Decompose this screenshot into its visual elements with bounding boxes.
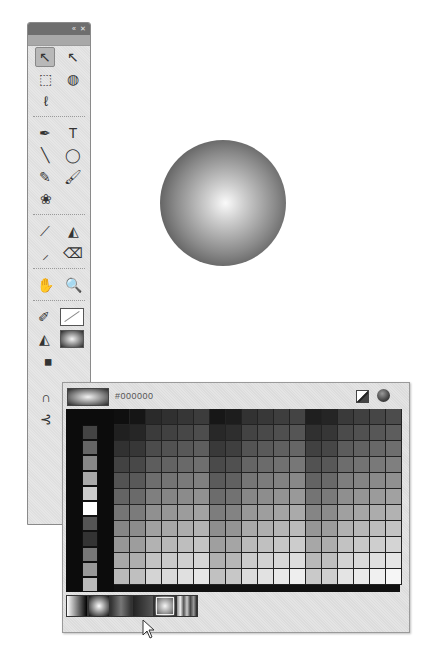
swatch-cell[interactable] xyxy=(386,569,402,585)
swatch-cell[interactable] xyxy=(290,409,306,425)
swatch-cell[interactable] xyxy=(354,489,370,505)
swatch-cell[interactable] xyxy=(290,505,306,521)
swatch-cell[interactable] xyxy=(210,425,226,441)
swatch-cell[interactable] xyxy=(386,441,402,457)
tools-grip-bar[interactable] xyxy=(28,35,90,46)
swatch-cell[interactable] xyxy=(114,473,130,489)
eraser-tool-icon[interactable]: ⌫ xyxy=(63,243,83,263)
swatch-cell[interactable] xyxy=(242,457,258,473)
swatch-cell[interactable] xyxy=(306,441,322,457)
3d-rotation-tool-icon[interactable]: ◍ xyxy=(63,69,83,89)
swatch-cell[interactable] xyxy=(178,441,194,457)
swatch-cell[interactable] xyxy=(306,473,322,489)
swatch-cell[interactable] xyxy=(370,441,386,457)
swatch-cell[interactable] xyxy=(322,425,338,441)
swatch-cell[interactable] xyxy=(338,409,354,425)
swatch-cell[interactable] xyxy=(178,569,194,585)
swatch-cell[interactable] xyxy=(178,409,194,425)
free-transform-tool-icon[interactable]: ⬚ xyxy=(35,69,55,89)
close-icon[interactable]: ✕ xyxy=(80,23,86,35)
swatch-cell[interactable] xyxy=(322,409,338,425)
swatch-cell[interactable] xyxy=(354,409,370,425)
hex-value-field[interactable]: #000000 xyxy=(115,391,154,401)
swatch-cell[interactable] xyxy=(258,537,274,553)
color-picker-icon[interactable] xyxy=(377,389,390,402)
black-column[interactable] xyxy=(66,409,82,592)
swatch-cell[interactable] xyxy=(82,562,98,577)
swatch-cell[interactable] xyxy=(178,505,194,521)
swatch-cell[interactable] xyxy=(354,441,370,457)
swatch-cell[interactable] xyxy=(258,553,274,569)
swatch-cell[interactable] xyxy=(386,521,402,537)
eyedropper-tool-icon[interactable]: ⸝ xyxy=(35,243,55,263)
swatch-cell[interactable] xyxy=(130,505,146,521)
swatch-cell[interactable] xyxy=(146,409,162,425)
swatch-cell[interactable] xyxy=(274,473,290,489)
swatch-cell[interactable] xyxy=(210,441,226,457)
swatch-cell[interactable] xyxy=(162,473,178,489)
tools-titlebar[interactable]: « ✕ xyxy=(28,23,90,35)
swatch-cell[interactable] xyxy=(178,473,194,489)
swatch-cell[interactable] xyxy=(370,505,386,521)
swatch-cell[interactable] xyxy=(370,569,386,585)
swatch-cell[interactable] xyxy=(178,457,194,473)
swatch-cell[interactable] xyxy=(370,521,386,537)
swatch-cell[interactable] xyxy=(210,489,226,505)
swatch-cell[interactable] xyxy=(274,537,290,553)
swatch-cell[interactable] xyxy=(242,441,258,457)
swatch-cell[interactable] xyxy=(194,473,210,489)
swatch-cell[interactable] xyxy=(226,441,242,457)
swatch-cell[interactable] xyxy=(290,569,306,585)
swatch-cell[interactable] xyxy=(114,441,130,457)
swatch-cell[interactable] xyxy=(146,457,162,473)
swatch-cell[interactable] xyxy=(226,457,242,473)
swatch-cell[interactable] xyxy=(226,489,242,505)
swatch-cell[interactable] xyxy=(210,505,226,521)
deco-tool-icon[interactable]: ❀ xyxy=(36,189,56,209)
swatch-cell[interactable] xyxy=(130,553,146,569)
swatch-cell[interactable] xyxy=(226,521,242,537)
swatch-cell[interactable] xyxy=(114,457,130,473)
zoom-tool-icon[interactable]: 🔍 xyxy=(63,275,83,295)
swatch-cell[interactable] xyxy=(162,425,178,441)
bone-tool-icon[interactable]: ⟋ xyxy=(35,221,55,241)
swatch-cell[interactable] xyxy=(114,569,130,585)
pencil-tool-icon[interactable]: ✎ xyxy=(35,167,55,187)
swatch-cell[interactable] xyxy=(274,489,290,505)
swatch-cell[interactable] xyxy=(338,441,354,457)
swatch-cell[interactable] xyxy=(354,537,370,553)
swatch-cell[interactable] xyxy=(178,521,194,537)
swatch-cell[interactable] xyxy=(370,425,386,441)
swatch-cell[interactable] xyxy=(290,521,306,537)
swatch-cell[interactable] xyxy=(114,489,130,505)
swatch-cell[interactable] xyxy=(194,409,210,425)
swatch-cell[interactable] xyxy=(386,505,402,521)
swatch-cell[interactable] xyxy=(386,537,402,553)
swatch-cell[interactable] xyxy=(114,553,130,569)
swatch-cell[interactable] xyxy=(210,553,226,569)
text-tool-icon[interactable]: T xyxy=(63,123,83,143)
swatch-cell[interactable] xyxy=(306,425,322,441)
swatch-cell[interactable] xyxy=(194,553,210,569)
swatch-cell[interactable] xyxy=(274,521,290,537)
swatch-cell[interactable] xyxy=(130,569,146,585)
oval-tool-icon[interactable]: ◯ xyxy=(63,145,83,165)
swatch-cell[interactable] xyxy=(130,521,146,537)
swatch-cell[interactable] xyxy=(258,457,274,473)
no-color-icon[interactable] xyxy=(356,390,369,403)
swatch-cell[interactable] xyxy=(146,521,162,537)
swatch-cell[interactable] xyxy=(210,409,226,425)
swatch-cell[interactable] xyxy=(354,457,370,473)
swatch-cell[interactable] xyxy=(274,441,290,457)
gradient-swatch-linear-dark-2[interactable] xyxy=(132,595,154,617)
swatch-cell[interactable] xyxy=(386,457,402,473)
swatch-cell[interactable] xyxy=(338,489,354,505)
swatch-cell[interactable] xyxy=(162,409,178,425)
swatch-cell[interactable] xyxy=(242,473,258,489)
hand-tool-icon[interactable]: ✋ xyxy=(35,275,55,295)
swatch-cell[interactable] xyxy=(146,505,162,521)
swatch-cell[interactable] xyxy=(162,553,178,569)
swatch-cell[interactable] xyxy=(194,441,210,457)
swatch-cell[interactable] xyxy=(178,425,194,441)
gradient-swatch-linear-dark[interactable] xyxy=(110,595,132,617)
